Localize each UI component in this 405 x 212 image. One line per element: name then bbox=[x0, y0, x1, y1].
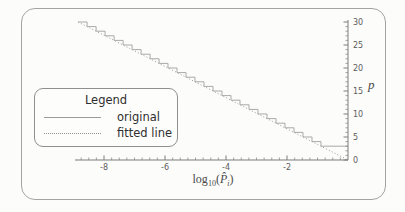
y-tick-label: 0 bbox=[353, 156, 358, 165]
y-tick-label: 25 bbox=[353, 41, 363, 50]
y-tick-label: 30 bbox=[353, 18, 363, 27]
x-tick-label: -6 bbox=[161, 163, 169, 172]
legend-title: Legend bbox=[35, 94, 177, 108]
y-tick-label: 15 bbox=[353, 87, 363, 96]
legend-item-original: original bbox=[35, 110, 177, 126]
fitted-line-sample bbox=[44, 133, 101, 134]
legend-item-fitted: fitted line bbox=[35, 126, 177, 142]
y-tick-label: 20 bbox=[353, 64, 363, 73]
x-axis-label: log10(P̂i) bbox=[163, 172, 263, 188]
x-axis-label-func: log bbox=[193, 172, 208, 186]
y-axis-label: p bbox=[368, 77, 375, 93]
x-tick-label: -8 bbox=[100, 163, 108, 172]
legend-item-label: fitted line bbox=[117, 128, 172, 140]
x-axis-label-base: 10 bbox=[208, 179, 216, 188]
y-tick-label: 10 bbox=[353, 110, 363, 119]
x-axis-label-close-paren: ) bbox=[229, 172, 233, 186]
x-tick-label: -4 bbox=[222, 163, 230, 172]
y-tick-label: 5 bbox=[353, 133, 358, 142]
legend-item-label: original bbox=[117, 112, 160, 124]
legend-box: Legend original fitted line bbox=[34, 88, 178, 147]
x-tick-label: -2 bbox=[283, 163, 291, 172]
original-line-sample bbox=[44, 117, 101, 118]
